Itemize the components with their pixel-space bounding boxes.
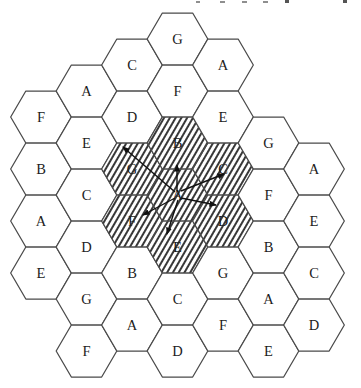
hex-cell-label: B: [36, 161, 46, 177]
hex-cell-label: A: [218, 57, 229, 73]
hex-cell-label: C: [309, 265, 319, 281]
hex-cell-label: D: [218, 213, 228, 229]
hex-cell-label: D: [172, 343, 182, 359]
hex-cell-label: G: [218, 265, 229, 281]
hex-cell-label: A: [81, 83, 92, 99]
hex-cell-label: D: [81, 239, 91, 255]
hex-cell-label: D: [309, 317, 319, 333]
hex-cell-label: G: [172, 31, 183, 47]
cropped-text-fragments: [196, 0, 347, 3]
hex-cell-label: D: [127, 109, 137, 125]
cropped-text-fragment: [285, 0, 289, 3]
hex-cell-label: F: [82, 343, 90, 359]
hex-cell-label: G: [263, 135, 274, 151]
hex-cell-label: F: [219, 317, 227, 333]
cropped-text-fragment: [343, 0, 347, 3]
hex-cell-label: B: [127, 265, 137, 281]
hex-cell-label: B: [264, 239, 274, 255]
cropped-text-fragment: [196, 1, 200, 3]
hex-cell-label: E: [264, 343, 273, 359]
frequency-reuse-diagram: FBAEAECDGFCDGFBAGFBAECDAECDGFGFBAEAECD: [0, 0, 361, 388]
hex-cell-label: E: [37, 265, 46, 281]
hex-cell-label: E: [82, 135, 91, 151]
hex-cell-label: C: [127, 57, 137, 73]
hex-cell-label: E: [310, 213, 319, 229]
hex-cell-label: F: [173, 83, 181, 99]
hex-cell-label: G: [81, 291, 92, 307]
hex-cell-label: F: [128, 213, 136, 229]
hex-cell-label: A: [263, 291, 274, 307]
hex-cell-label: F: [37, 109, 45, 125]
cropped-text-fragment: [263, 1, 268, 3]
cropped-text-fragment: [242, 1, 247, 3]
hex-grid-canvas: FBAEAECDGFCDGFBAGFBAECDAECDGFGFBAEAECD: [0, 0, 361, 388]
hex-cell-label: E: [219, 109, 228, 125]
hex-cell-label: C: [82, 187, 92, 203]
cropped-text-fragment: [220, 1, 225, 3]
hex-cell-label: G: [127, 161, 138, 177]
hex-cell-label: A: [127, 317, 138, 333]
hex-cell-label: A: [36, 213, 47, 229]
hex-cell-label: C: [173, 291, 183, 307]
hex-cell-label: A: [309, 161, 320, 177]
hex-cell-label: F: [264, 187, 272, 203]
hex-cell-label: E: [173, 239, 182, 255]
hex-cell-label: B: [173, 135, 183, 151]
